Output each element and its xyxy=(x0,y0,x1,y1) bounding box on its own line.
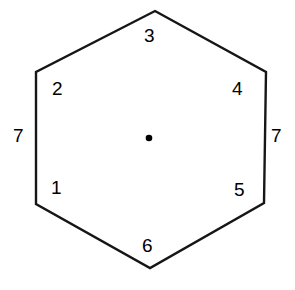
vertex-label-top: 3 xyxy=(144,26,155,45)
hexagon-figure: 3 2 4 7 7 1 5 6 xyxy=(0,0,295,290)
vertex-label-lower-left: 1 xyxy=(51,178,62,197)
center-dot-icon xyxy=(146,135,153,142)
vertex-label-upper-right: 4 xyxy=(232,79,243,98)
vertex-label-bottom: 6 xyxy=(142,236,153,255)
vertex-label-left-outer: 7 xyxy=(13,126,24,145)
vertex-label-lower-right: 5 xyxy=(234,180,245,199)
vertex-label-right-outer: 7 xyxy=(271,126,282,145)
vertex-label-upper-left: 2 xyxy=(52,79,63,98)
